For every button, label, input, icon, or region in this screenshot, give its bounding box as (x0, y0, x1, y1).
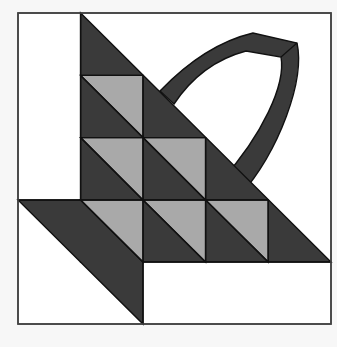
quilt-block (0, 0, 337, 347)
